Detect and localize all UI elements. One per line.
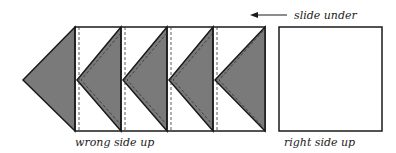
geese-unit-2 <box>123 27 167 131</box>
geese-unit-1 <box>77 27 121 131</box>
geese-unit-4 <box>215 27 265 131</box>
label-slide-under: slide under <box>294 9 357 22</box>
arrow-left-icon <box>250 12 258 18</box>
right-square <box>279 27 382 131</box>
flying-geese-diagram: slide under wrong side up right side up <box>0 0 396 153</box>
geese-unit-3 <box>169 27 213 131</box>
label-wrong-side-up: wrong side up <box>75 136 154 149</box>
slide-arrow <box>250 12 287 18</box>
label-right-side-up: right side up <box>284 136 355 149</box>
leading-triangle <box>23 27 75 131</box>
